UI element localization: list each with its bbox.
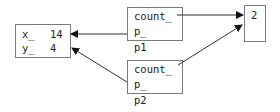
count-value: 2 bbox=[251, 9, 257, 21]
p1-label: p1 bbox=[134, 41, 147, 53]
p2-count-field: count_ bbox=[134, 63, 172, 75]
field-y-value: 4 bbox=[50, 42, 56, 54]
p1-count-field: count_ bbox=[134, 10, 172, 22]
field-x-name: x_ bbox=[22, 28, 35, 40]
p2-label: p2 bbox=[134, 94, 147, 106]
field-y-name: y_ bbox=[22, 42, 35, 54]
field-x-value: 14 bbox=[50, 28, 63, 40]
p1-p-field: p_ bbox=[134, 25, 147, 37]
arrow-p2-p-to-point-object bbox=[72, 48, 127, 82]
p2-p-field: p_ bbox=[134, 78, 147, 90]
arrow-p2-count-to-count-object bbox=[178, 25, 242, 65]
